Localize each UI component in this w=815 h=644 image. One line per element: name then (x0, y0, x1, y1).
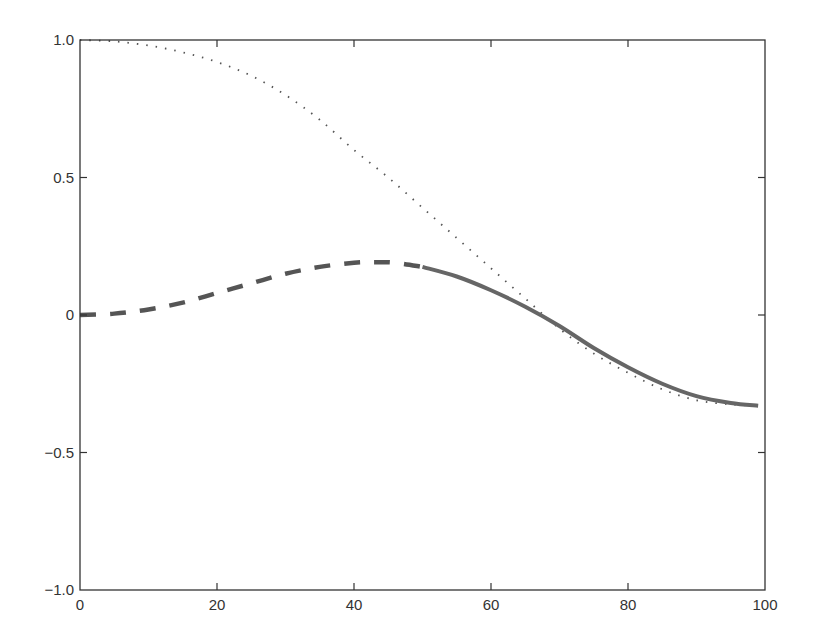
y-tick-label: 0.5 (53, 169, 74, 186)
x-tick-label: 60 (483, 596, 500, 613)
y-axis: −1.0−0.500.51.0 (44, 31, 765, 598)
x-tick-label: 80 (620, 596, 637, 613)
plot-frame (80, 40, 765, 590)
series-layer (80, 40, 758, 406)
y-tick-label: −0.5 (44, 444, 74, 461)
y-tick-label: 1.0 (53, 31, 74, 48)
x-tick-label: 40 (346, 596, 363, 613)
x-tick-label: 20 (209, 596, 226, 613)
series-solid-line (423, 267, 759, 406)
x-axis: 020406080100 (76, 40, 778, 613)
series-dashed-line (80, 262, 423, 315)
line-chart: 020406080100 −1.0−0.500.51.0 (0, 0, 815, 644)
y-tick-label: 0 (66, 306, 74, 323)
series-dotted-line (80, 40, 758, 406)
x-tick-label: 100 (752, 596, 777, 613)
x-tick-label: 0 (76, 596, 84, 613)
y-tick-label: −1.0 (44, 581, 74, 598)
